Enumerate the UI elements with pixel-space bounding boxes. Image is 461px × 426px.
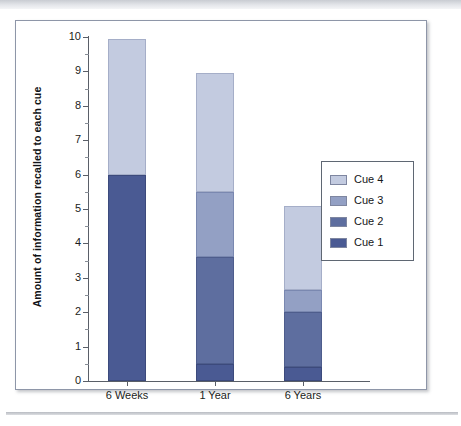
legend-label: Cue 1: [354, 237, 383, 248]
bar-segment-cue-1[interactable]: [108, 175, 146, 381]
y-minor-tick: [85, 54, 89, 55]
bar-segment-cue-1[interactable]: [284, 367, 322, 381]
y-tick-label-10: 10: [57, 31, 81, 42]
page-bottom-rule: [6, 412, 458, 415]
bar-segment-cue-4[interactable]: [284, 206, 322, 290]
y-tick-7: [83, 140, 89, 141]
chart-plot-area: Amount of information recalled to each c…: [16, 21, 428, 391]
x-tick-label-6-years: 6 Years: [263, 389, 343, 401]
y-tick-label-1: 1: [57, 341, 81, 352]
legend-label: Cue 3: [354, 195, 383, 206]
bar-segment-cue-3[interactable]: [196, 192, 234, 257]
legend-item-cue-1[interactable]: Cue 1: [330, 232, 407, 253]
y-tick-label-3: 3: [57, 272, 81, 283]
y-axis-title: Amount of information recalled to each c…: [31, 72, 43, 322]
legend-swatch-icon: [330, 217, 347, 227]
bar-segment-cue-1[interactable]: [196, 364, 234, 381]
y-tick-10: [83, 37, 89, 38]
x-axis-line: [88, 381, 370, 382]
y-tick-label-4: 4: [57, 237, 81, 248]
legend-swatch-icon: [330, 196, 347, 206]
legend-swatch-icon: [330, 175, 347, 185]
bar-segment-cue-2[interactable]: [284, 312, 322, 367]
x-tick-2: [303, 381, 304, 386]
y-tick-6: [83, 175, 89, 176]
bar-6-weeks[interactable]: [108, 21, 146, 381]
y-minor-tick: [85, 157, 89, 158]
y-minor-tick: [85, 123, 89, 124]
y-tick-0: [83, 381, 89, 382]
y-tick-8: [83, 106, 89, 107]
y-tick-label-7: 7: [57, 134, 81, 145]
y-tick-label-0: 0: [57, 375, 81, 386]
bar-segment-cue-3[interactable]: [284, 290, 322, 312]
y-minor-tick: [85, 89, 89, 90]
x-tick-label-1-year: 1 Year: [175, 389, 255, 401]
y-tick-label-9: 9: [57, 65, 81, 76]
bar-1-year[interactable]: [196, 21, 234, 381]
bar-segment-cue-4[interactable]: [108, 39, 146, 175]
legend-item-cue-2[interactable]: Cue 2: [330, 211, 407, 232]
x-tick-0: [127, 381, 128, 386]
y-tick-2: [83, 312, 89, 313]
y-minor-tick: [85, 261, 89, 262]
y-tick-5: [83, 209, 89, 210]
legend-label: Cue 2: [354, 216, 383, 227]
bar-6-years[interactable]: [284, 21, 322, 381]
y-minor-tick: [85, 192, 89, 193]
y-tick-label-2: 2: [57, 306, 81, 317]
x-tick-label-6-weeks: 6 Weeks: [87, 389, 167, 401]
y-minor-tick: [85, 329, 89, 330]
legend-label: Cue 4: [354, 174, 383, 185]
y-tick-label-6: 6: [57, 169, 81, 180]
y-minor-tick: [85, 226, 89, 227]
x-tick-1: [215, 381, 216, 386]
y-minor-tick: [85, 295, 89, 296]
bar-segment-cue-4[interactable]: [196, 73, 234, 192]
figure-frame: Amount of information recalled to each c…: [15, 20, 427, 390]
chart-legend: Cue 4Cue 3Cue 2Cue 1: [321, 161, 414, 261]
y-tick-9: [83, 71, 89, 72]
y-tick-label-8: 8: [57, 100, 81, 111]
y-tick-4: [83, 243, 89, 244]
bar-segment-cue-2[interactable]: [196, 257, 234, 364]
legend-swatch-icon: [330, 238, 347, 248]
y-tick-1: [83, 347, 89, 348]
legend-item-cue-3[interactable]: Cue 3: [330, 190, 407, 211]
legend-item-cue-4[interactable]: Cue 4: [330, 169, 407, 190]
y-tick-3: [83, 278, 89, 279]
page-top-band: [0, 0, 461, 9]
y-tick-label-5: 5: [57, 203, 81, 214]
y-minor-tick: [85, 364, 89, 365]
